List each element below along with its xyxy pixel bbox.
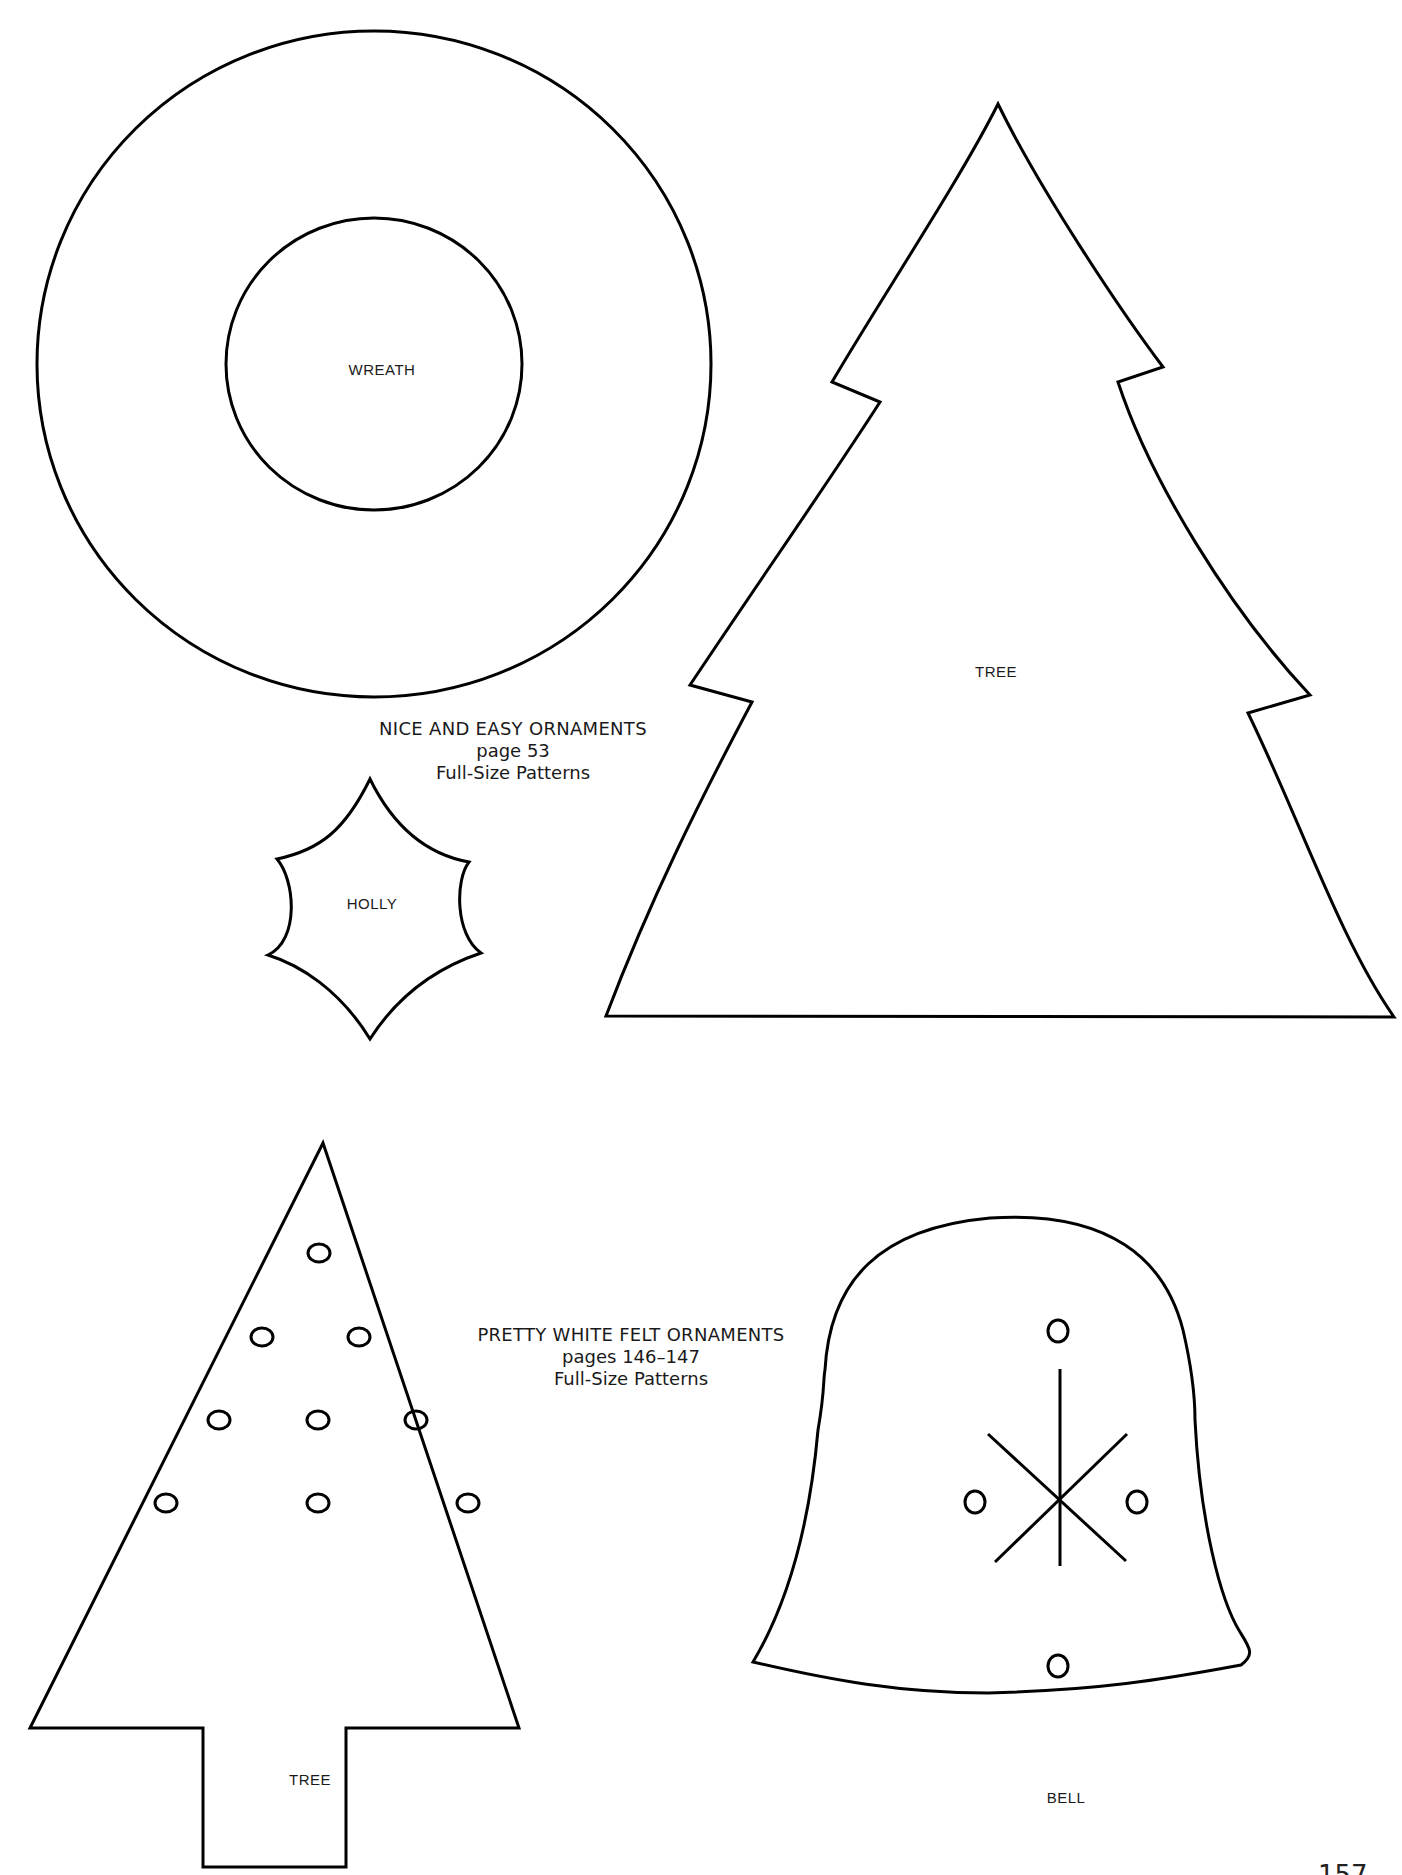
section-subtitle: Full-Size Patterns	[477, 1368, 784, 1390]
felt-tree-label: TREE	[289, 1771, 331, 1788]
tree-dot	[457, 1494, 479, 1512]
section-page-reference: page 53	[379, 740, 647, 762]
page-number: 157	[1318, 1862, 1368, 1875]
section-title: NICE AND EASY ORNAMENTS	[379, 718, 647, 740]
bell-dot	[965, 1491, 985, 1513]
tree-dot	[307, 1411, 329, 1429]
felt-tree-pattern	[30, 1143, 519, 1867]
large-tree-pattern	[606, 104, 1394, 1017]
wreath-label: WREATH	[349, 361, 416, 378]
tree-dot	[208, 1411, 230, 1429]
bell-label: BELL	[1047, 1789, 1086, 1806]
pattern-shapes	[0, 0, 1402, 1875]
section-subtitle: Full-Size Patterns	[379, 762, 647, 784]
tree-dot	[348, 1328, 370, 1346]
tree-dot	[155, 1494, 177, 1512]
tree-dot	[308, 1244, 330, 1262]
bell-dot	[1048, 1655, 1068, 1677]
tree-dot	[307, 1494, 329, 1512]
holly-label: HOLLY	[347, 895, 398, 912]
section-page-reference: pages 146–147	[477, 1346, 784, 1368]
bell-dot	[1048, 1320, 1068, 1342]
bell-snowflake	[988, 1369, 1127, 1566]
pattern-page: WREATH TREE HOLLY TREE BELL NICE AND EAS…	[0, 0, 1402, 1875]
bell-pattern	[753, 1217, 1250, 1693]
section-title: PRETTY WHITE FELT ORNAMENTS	[477, 1324, 784, 1346]
tree-dot	[251, 1328, 273, 1346]
felt-tree-dots	[155, 1244, 479, 1512]
large-tree-label: TREE	[975, 663, 1017, 680]
bell-dot	[1127, 1491, 1147, 1513]
nice-and-easy-caption: NICE AND EASY ORNAMENTS page 53 Full-Siz…	[379, 718, 647, 784]
pretty-white-felt-caption: PRETTY WHITE FELT ORNAMENTS pages 146–14…	[477, 1324, 784, 1390]
